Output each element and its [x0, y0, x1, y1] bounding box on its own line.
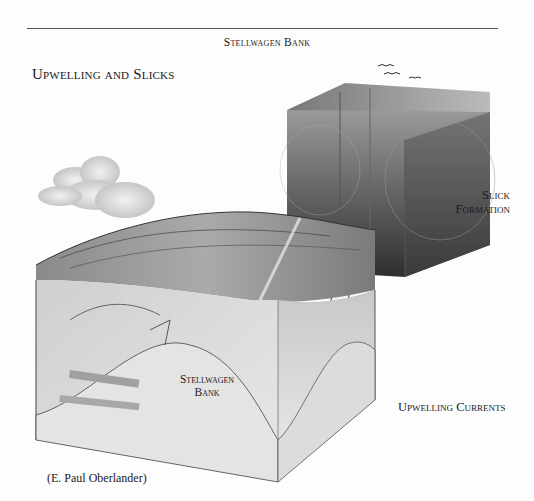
stellwagen-bank-label-line1: Stellwagen	[172, 373, 242, 386]
upwelling-illustration	[0, 0, 534, 501]
stellwagen-bank-label-line2: Bank	[172, 386, 242, 399]
slick-formation-label-line1: Slick	[430, 188, 510, 202]
illustration-credit: (E. Paul Oberlander)	[47, 471, 147, 486]
stellwagen-bank-label: Stellwagen Bank	[172, 373, 242, 399]
slick-formation-label-line2: Formation	[430, 202, 510, 216]
cloud-icon	[38, 156, 155, 218]
ocean-block	[36, 212, 375, 482]
upwelling-currents-label: Upwelling Currents	[398, 400, 505, 414]
slick-formation-label: Slick Formation	[430, 188, 510, 216]
